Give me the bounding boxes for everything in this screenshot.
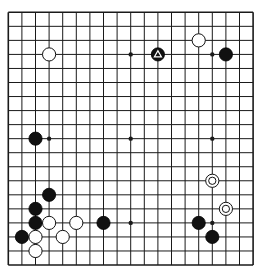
star-point <box>129 221 133 225</box>
black-stone[interactable] <box>29 132 42 145</box>
star-point <box>129 136 133 140</box>
star-point <box>47 136 51 140</box>
white-stone[interactable] <box>29 244 42 257</box>
stones-layer[interactable] <box>15 34 232 258</box>
star-point <box>210 221 214 225</box>
black-stone[interactable] <box>192 216 205 229</box>
black-stone[interactable] <box>219 48 232 61</box>
black-stone[interactable] <box>43 188 56 201</box>
white-stone[interactable] <box>192 34 205 47</box>
black-stone[interactable] <box>97 216 110 229</box>
white-stone[interactable] <box>43 48 56 61</box>
black-stone[interactable] <box>29 202 42 215</box>
white-stone[interactable] <box>70 216 83 229</box>
black-stone[interactable] <box>206 230 219 243</box>
black-stone[interactable] <box>29 216 42 229</box>
star-point <box>210 52 214 56</box>
black-stone[interactable] <box>151 48 164 61</box>
black-stone[interactable] <box>15 230 28 243</box>
white-stone[interactable] <box>219 202 232 215</box>
star-point <box>210 136 214 140</box>
white-stone[interactable] <box>43 216 56 229</box>
white-stone[interactable] <box>56 230 69 243</box>
go-board[interactable] <box>0 0 260 277</box>
star-point <box>129 52 133 56</box>
white-stone[interactable] <box>29 230 42 243</box>
white-stone[interactable] <box>206 174 219 187</box>
